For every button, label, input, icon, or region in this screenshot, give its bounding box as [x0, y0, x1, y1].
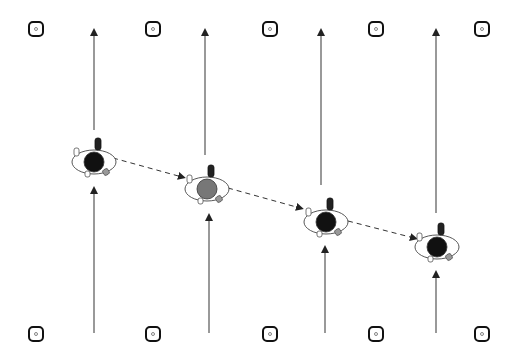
- cones-group: [29, 22, 489, 341]
- cone-icon: [146, 327, 160, 341]
- cone-icon: [475, 327, 489, 341]
- dashed-path-arrow: [348, 221, 414, 238]
- drill-diagram: [0, 0, 518, 362]
- drill-canvas: [0, 0, 518, 362]
- player-icon: [72, 138, 116, 177]
- pass-path-group: [113, 158, 414, 238]
- cone-icon: [263, 327, 277, 341]
- dashed-path-arrow: [113, 158, 182, 177]
- players-group: [72, 138, 459, 262]
- dashed-path-arrow: [228, 188, 300, 208]
- player-icon: [415, 223, 459, 262]
- player-icon: [185, 165, 229, 204]
- cone-icon: [369, 327, 383, 341]
- player-icon: [304, 198, 348, 237]
- cone-icon: [369, 22, 383, 36]
- cone-icon: [263, 22, 277, 36]
- run-arrows-group: [94, 32, 436, 333]
- cone-icon: [475, 22, 489, 36]
- cone-icon: [146, 22, 160, 36]
- cone-icon: [29, 22, 43, 36]
- cone-icon: [29, 327, 43, 341]
